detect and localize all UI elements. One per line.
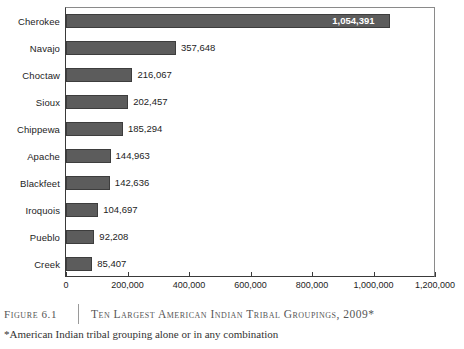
bar-row: Chippewa185,294	[0, 116, 464, 143]
category-label: Apache	[0, 143, 60, 170]
bar	[66, 68, 132, 82]
x-axis-tick-label: 200,000	[111, 280, 144, 290]
bar-row: Sioux202,457	[0, 89, 464, 116]
category-label: Choctaw	[0, 62, 60, 89]
bar	[66, 257, 92, 271]
bar-row: Pueblo92,208	[0, 224, 464, 251]
figure-chart: Cherokee1,054,391Navajo357,648Choctaw216…	[0, 0, 464, 296]
x-axis: 0200,000400,000600,000800,0001,000,0001,…	[65, 277, 436, 297]
bar-row: Blackfeet142,636	[0, 170, 464, 197]
bar-row: Apache144,963	[0, 143, 464, 170]
x-axis-tick	[251, 272, 252, 277]
bar-value-label: 104,697	[103, 203, 137, 217]
bar-value-label: 202,457	[133, 95, 167, 109]
bar	[66, 95, 128, 109]
x-axis-tick-label: 400,000	[173, 280, 206, 290]
bar-row: Iroquois104,697	[0, 197, 464, 224]
figure-number: Figure 6.1	[4, 308, 78, 320]
bar-rows: Cherokee1,054,391Navajo357,648Choctaw216…	[0, 7, 464, 277]
category-label: Chippewa	[0, 116, 60, 143]
category-label: Blackfeet	[0, 170, 60, 197]
category-label: Cherokee	[0, 8, 60, 35]
bar-value-label: 216,067	[137, 68, 171, 82]
x-axis-tick	[66, 272, 67, 277]
category-label: Creek	[0, 251, 60, 278]
category-label: Navajo	[0, 35, 60, 62]
category-label: Pueblo	[0, 224, 60, 251]
bar-row: Cherokee1,054,391	[0, 8, 464, 35]
figure-caption: Figure 6.1 Ten Largest American Indian T…	[4, 303, 460, 325]
bar	[66, 41, 176, 55]
bar-value-label: 142,636	[115, 176, 149, 190]
x-axis-tick	[374, 272, 375, 277]
bar-row: Creek85,407	[0, 251, 464, 278]
bar	[66, 203, 98, 217]
x-axis-tick	[312, 272, 313, 277]
category-label: Iroquois	[0, 197, 60, 224]
x-axis-tick	[435, 272, 436, 277]
bar-value-label: 357,648	[181, 41, 215, 55]
bar-value-label: 92,208	[99, 230, 128, 244]
caption-divider	[78, 304, 79, 324]
bar-value-label: 144,963	[116, 149, 150, 163]
x-axis-tick	[128, 272, 129, 277]
bar	[66, 230, 94, 244]
bar	[66, 122, 123, 136]
bar	[66, 176, 110, 190]
bar	[66, 149, 111, 163]
figure-footnote: *American Indian tribal grouping alone o…	[4, 328, 278, 340]
bar-row: Choctaw216,067	[0, 62, 464, 89]
figure-title: Ten Largest American Indian Tribal Group…	[91, 308, 375, 320]
category-label: Sioux	[0, 89, 60, 116]
x-axis-tick	[189, 272, 190, 277]
x-axis-tick-label: 1,200,000	[415, 280, 455, 290]
x-axis-tick-label: 800,000	[296, 280, 329, 290]
x-axis-tick-label: 1,000,000	[353, 280, 393, 290]
bar-value-label: 1,054,391	[332, 14, 374, 28]
bar-value-label: 85,407	[97, 257, 126, 271]
bar-row: Navajo357,648	[0, 35, 464, 62]
bar-value-label: 185,294	[128, 122, 162, 136]
x-axis-tick-label: 0	[63, 280, 68, 290]
x-axis-tick-label: 600,000	[234, 280, 267, 290]
